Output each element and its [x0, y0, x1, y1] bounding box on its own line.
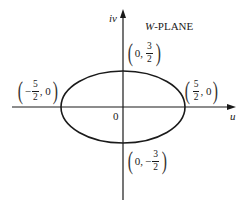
right-paren: )	[162, 148, 167, 174]
fraction-denominator: 2	[153, 162, 158, 173]
fraction-denominator: 2	[194, 92, 199, 103]
plane-title: W-PLANE	[145, 21, 193, 32]
left-paren: (	[128, 40, 133, 66]
iv-axis-arrow-icon	[120, 9, 126, 18]
point-label-top: ( 0, 3 2 )	[126, 40, 162, 66]
point-bottom-fraction: 3 2	[152, 150, 159, 172]
fraction-numerator: 5	[32, 80, 39, 92]
right-paren: )	[155, 40, 160, 66]
point-left-post: , 0	[40, 85, 51, 97]
plane-title-prefix: W	[145, 20, 154, 32]
fraction-numerator: 3	[152, 150, 159, 162]
right-paren: )	[213, 78, 218, 104]
fraction-numerator: 5	[193, 80, 200, 92]
point-label-left: ( − 5 2 , 0 )	[16, 78, 59, 104]
fraction-denominator: 2	[33, 92, 38, 103]
fraction-numerator: 3	[146, 42, 153, 54]
left-paren: (	[18, 78, 23, 104]
fraction-denominator: 2	[147, 54, 152, 65]
point-bottom-sign: −	[145, 155, 151, 167]
point-top-pre: 0,	[135, 47, 143, 59]
point-label-bottom: ( 0, − 3 2 )	[126, 148, 169, 174]
point-left-sign: −	[25, 85, 31, 97]
plane-title-suffix: -PLANE	[154, 20, 193, 32]
point-left-fraction: 5 2	[32, 80, 39, 102]
right-paren: )	[52, 78, 57, 104]
origin-label: 0	[113, 111, 119, 122]
point-right-fraction: 5 2	[193, 80, 200, 102]
iv-axis-label: iv	[109, 13, 117, 24]
w-plane-diagram	[0, 0, 248, 214]
point-right-post: , 0	[200, 85, 211, 97]
point-bottom-pre: 0,	[135, 155, 143, 167]
left-paren: (	[128, 148, 133, 174]
point-top-fraction: 3 2	[146, 42, 153, 64]
u-axis-label: u	[230, 111, 236, 122]
left-paren: (	[185, 78, 190, 104]
point-label-right: ( 5 2 , 0 )	[183, 78, 220, 104]
